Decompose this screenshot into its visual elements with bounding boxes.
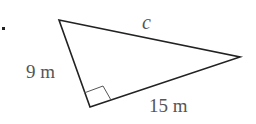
triangle-diagram: c 9 m 15 m xyxy=(0,0,256,124)
bullet-dot xyxy=(2,27,5,30)
triangle xyxy=(59,20,240,107)
leg-left-label: 9 m xyxy=(26,61,55,82)
right-angle-marker xyxy=(84,86,111,100)
hypotenuse-label: c xyxy=(142,11,151,33)
leg-bottom-label: 15 m xyxy=(149,95,188,116)
